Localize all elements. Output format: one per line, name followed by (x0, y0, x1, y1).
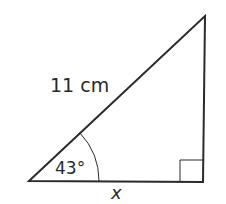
right-angle-marker (180, 160, 203, 182)
triangle-diagram: 11 cm 43° x (0, 0, 226, 204)
base-label: x (110, 182, 122, 203)
hypotenuse-label: 11 cm (50, 74, 109, 96)
angle-label: 43° (55, 158, 85, 178)
